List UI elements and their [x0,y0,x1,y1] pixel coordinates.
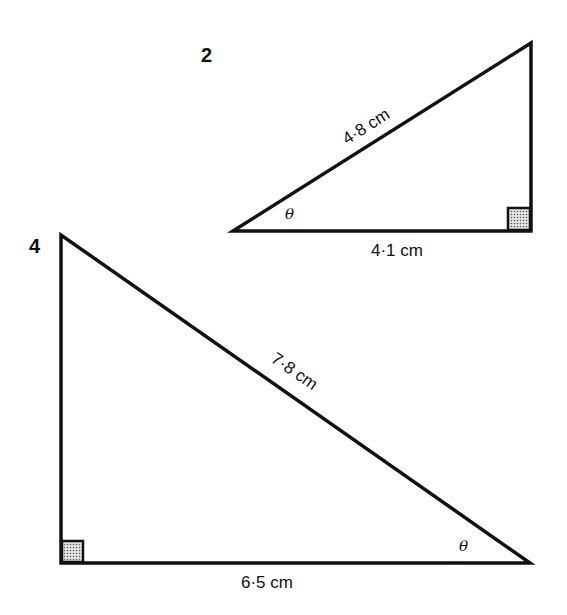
right-angle-marker [508,208,530,230]
right-angle-marker [62,541,83,562]
triangle-4: 4 7·8 cm 6·5 cm θ [29,235,530,592]
angle-theta-label: θ [285,205,294,223]
angle-theta-label: θ [459,537,468,555]
triangle-number-2: 2 [201,44,212,66]
triangle-2: 2 4·8 cm 4·1 cm θ [201,43,531,260]
adjacent-label: 4·1 cm [371,241,423,260]
triangle-2-outline [233,43,531,231]
triangle-diagram: 2 4·8 cm 4·1 cm θ 4 7·8 cm 6·5 cm θ [0,0,567,615]
triangle-4-outline [61,235,530,563]
adjacent-label: 6·5 cm [241,573,293,592]
hypotenuse-label: 4·8 cm [339,105,393,149]
triangle-number-4: 4 [29,235,41,257]
